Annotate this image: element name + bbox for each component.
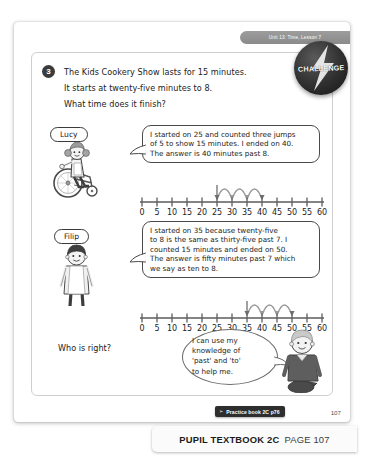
svg-text:25: 25 bbox=[212, 208, 222, 217]
lucy-speech-line-1: I started on 25 and counted three jumps bbox=[150, 130, 312, 139]
speech-tail-icon bbox=[130, 252, 146, 264]
caption-bar: PUPIL TEXTBOOK 2C PAGE 107 bbox=[152, 426, 357, 452]
svg-text:5: 5 bbox=[154, 324, 159, 333]
challenge-badge: CHALLENGE bbox=[294, 41, 348, 95]
question-line-1: The Kids Cookery Show lasts for 15 minut… bbox=[64, 64, 292, 80]
svg-text:55: 55 bbox=[302, 208, 312, 217]
svg-text:10: 10 bbox=[167, 324, 177, 333]
svg-text:15: 15 bbox=[182, 208, 192, 217]
svg-text:15: 15 bbox=[182, 324, 192, 333]
filip-speech-line-4: The answer is fifty minutes past 7 which bbox=[150, 254, 312, 263]
filip-speech-line-3: counted 15 minutes and ended on 50. bbox=[150, 245, 312, 254]
svg-text:10: 10 bbox=[167, 208, 177, 217]
filip-speech-line-2: to 8 is the same as thirty-five past 7. … bbox=[150, 235, 312, 244]
question-card: CHALLENGE 3 The Kids Cookery Show lasts … bbox=[31, 52, 333, 396]
filip-speech-line-1: I started on 35 because twenty-five bbox=[150, 226, 312, 235]
hint-line-3: 'past' and 'to' bbox=[192, 356, 268, 366]
who-is-right-label: Who is right? bbox=[58, 343, 111, 353]
caption-book-title: PUPIL TEXTBOOK 2C bbox=[179, 434, 279, 445]
question-text: The Kids Cookery Show lasts for 15 minut… bbox=[64, 64, 292, 112]
hint-speech-bubble: I can use my knowledge of 'past' and 'to… bbox=[182, 329, 278, 385]
question-line-3: What time does it finish? bbox=[64, 96, 292, 112]
lucy-speech-bubble: I started on 25 and counted three jumps … bbox=[142, 125, 320, 163]
svg-text:40: 40 bbox=[257, 324, 267, 333]
question-number-badge: 3 bbox=[42, 65, 55, 78]
lucy-number-line: 0 5 10 15 20 25 30 35 40 45 50 55 60 bbox=[134, 165, 330, 217]
svg-text:5: 5 bbox=[154, 208, 159, 217]
question-header: 3 The Kids Cookery Show lasts for 15 min… bbox=[42, 64, 292, 112]
hint-line-4: to help me. bbox=[192, 367, 268, 377]
page-number: 107 bbox=[331, 409, 341, 416]
textbook-page: Unit 13: Time, Lesson 7 CHALLENGE 3 The … bbox=[14, 22, 350, 422]
svg-text:40: 40 bbox=[257, 208, 267, 217]
hint-line-2: knowledge of bbox=[192, 346, 268, 356]
speech-tail-icon bbox=[130, 144, 146, 156]
svg-text:20: 20 bbox=[197, 208, 207, 217]
filip-speech-line-5: we say as ten to 8. bbox=[150, 264, 312, 273]
hint-avatar-boy-seated-icon bbox=[277, 325, 329, 393]
svg-text:50: 50 bbox=[287, 208, 297, 217]
svg-text:60: 60 bbox=[317, 208, 327, 217]
lucy-speech-line-2: of 5 to show 15 minutes. I ended on 40. bbox=[150, 139, 312, 148]
svg-text:45: 45 bbox=[272, 208, 282, 217]
svg-text:35: 35 bbox=[242, 208, 252, 217]
svg-text:0: 0 bbox=[139, 208, 144, 217]
practice-book-chip[interactable]: ➢ Practice book 2C p76 bbox=[215, 406, 285, 417]
lucy-speech-line-3: The answer is 40 minutes past 8. bbox=[150, 149, 312, 158]
hint-line-1: I can use my bbox=[192, 336, 268, 346]
filip-speech-bubble: I started on 35 because twenty-five to 8… bbox=[142, 221, 320, 278]
unit-header-label: Unit 13: Time, Lesson 7 bbox=[269, 35, 321, 40]
filip-avatar-boy-in-apron-icon bbox=[52, 242, 104, 308]
practice-book-label: Practice book 2C p76 bbox=[226, 409, 280, 415]
question-line-2: It starts at twenty-five minutes to 8. bbox=[64, 80, 292, 96]
svg-text:30: 30 bbox=[227, 208, 237, 217]
caption-page-label: PAGE 107 bbox=[284, 434, 329, 445]
arrow-right-icon: ➢ bbox=[219, 409, 223, 414]
svg-text:0: 0 bbox=[139, 324, 144, 333]
challenge-badge-label: CHALLENGE bbox=[298, 63, 345, 74]
lucy-avatar-girl-in-wheelchair-icon bbox=[48, 139, 106, 201]
